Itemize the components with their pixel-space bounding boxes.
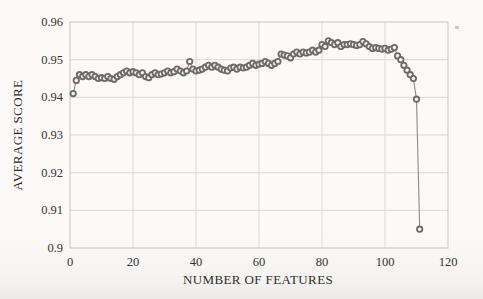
y-tick-label: 0.93 <box>41 129 63 142</box>
y-tick-label: 0.92 <box>41 166 63 179</box>
y-tick-label: 0.94 <box>41 91 63 104</box>
x-tick-label: 100 <box>376 256 395 269</box>
x-tick-label: 0 <box>67 256 73 269</box>
x-axis-title: NUMBER OF FEATURES <box>183 273 333 286</box>
x-tick-label: 40 <box>190 256 203 269</box>
y-axis-title: AVERAGE SCORE <box>11 80 24 191</box>
x-tick-label: 120 <box>439 256 458 269</box>
y-tick-label: 0.9 <box>47 242 63 255</box>
x-tick-label: 80 <box>316 256 329 269</box>
y-tick-label: 0.95 <box>41 53 63 66</box>
chart-figure: 0.90.910.920.930.940.950.96 020406080100… <box>0 0 483 299</box>
x-tick-label: 20 <box>127 256 140 269</box>
scan-artifact-speck <box>455 26 459 29</box>
y-tick-label: 0.96 <box>41 16 63 29</box>
x-tick-label: 60 <box>253 256 266 269</box>
y-tick-label: 0.91 <box>41 204 63 217</box>
